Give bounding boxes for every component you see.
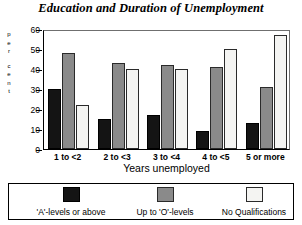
y-axis-tick-label: 40 <box>20 66 40 75</box>
bar <box>246 123 259 149</box>
x-axis-title: Years unemployed <box>43 162 290 174</box>
bar-group <box>44 31 93 149</box>
bar <box>274 35 287 149</box>
x-axis-category-label: 5 or more <box>241 152 290 162</box>
bar <box>76 105 89 149</box>
legend: 'A'-levels or aboveUp to 'O'-levelsNo Qu… <box>8 183 294 220</box>
x-axis-category-label: 3 to <4 <box>142 152 191 162</box>
x-axis-category-label: 4 to <5 <box>191 152 240 162</box>
y-axis-label-letter: t <box>8 87 10 96</box>
bar <box>175 69 188 149</box>
bar <box>126 69 139 149</box>
y-axis-label-letter: n <box>7 79 10 88</box>
bar-group <box>93 31 142 149</box>
y-axis-tick-label: 0 <box>20 146 40 155</box>
y-axis-tick-label: 60 <box>20 26 40 35</box>
legend-item[interactable]: No Qualifications <box>194 184 302 219</box>
legend-swatch <box>63 187 80 202</box>
bar-group <box>192 31 241 149</box>
bar <box>147 115 160 149</box>
chart-container: Education and Duration of Unemployment p… <box>0 0 302 225</box>
bar-group <box>242 31 291 149</box>
y-axis-label-letter: r <box>8 47 10 56</box>
legend-label: Up to 'O'-levels <box>136 207 193 217</box>
legend-swatch <box>246 187 263 202</box>
y-axis-tick-label: 10 <box>20 126 40 135</box>
y-axis-tick-label: 20 <box>20 106 40 115</box>
legend-swatch <box>157 187 174 202</box>
y-axis-tick-label: 50 <box>20 46 40 55</box>
y-axis-label-letter: e <box>7 39 10 48</box>
bar <box>161 65 174 149</box>
plot-area <box>43 30 290 150</box>
y-axis-label-letter: e <box>7 70 10 79</box>
bar <box>62 53 75 149</box>
bar <box>260 87 273 149</box>
bar <box>98 119 111 149</box>
y-axis-label-letter: c <box>8 62 11 71</box>
chart-title: Education and Duration of Unemployment <box>0 1 302 16</box>
bar <box>210 67 223 149</box>
bar <box>48 89 61 149</box>
bar <box>224 49 237 149</box>
y-axis-label: percent <box>4 30 14 96</box>
bar <box>112 63 125 149</box>
x-axis-category-label: 1 to <2 <box>43 152 92 162</box>
legend-label: No Qualifications <box>222 207 286 217</box>
y-axis-label-letter: p <box>7 30 10 39</box>
y-axis-tick-label: 30 <box>20 86 40 95</box>
legend-label: 'A'-levels or above <box>37 207 106 217</box>
bar-group <box>143 31 192 149</box>
x-axis-category-label: 2 to <3 <box>92 152 141 162</box>
bar <box>196 131 209 149</box>
